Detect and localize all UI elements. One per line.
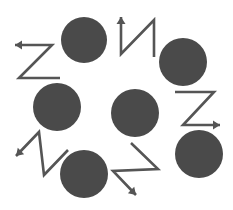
circle-bottom	[60, 150, 108, 198]
zigzag-top-arrow-icon	[117, 17, 155, 57]
circles-and-arrows-diagram	[0, 0, 233, 210]
arrowhead-icon	[213, 121, 220, 130]
zigzag-bottom-arrow-icon	[113, 143, 158, 198]
circle-lower-right	[175, 130, 223, 178]
circle-center	[111, 89, 159, 137]
circle-upper-right	[159, 38, 207, 86]
arrowhead-icon	[15, 41, 22, 50]
circle-top	[61, 17, 107, 63]
diagram-canvas	[0, 0, 233, 210]
circle-left	[33, 83, 81, 131]
arrowhead-icon	[117, 17, 126, 24]
zigzag-right-arrow-icon	[175, 92, 220, 130]
zigzag-top-left-arrow-icon	[15, 41, 60, 79]
zigzag-left-arrow-icon	[13, 132, 68, 175]
